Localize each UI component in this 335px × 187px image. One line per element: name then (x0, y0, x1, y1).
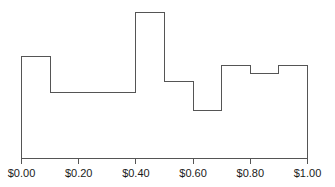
x-axis-tick-label: $0.40 (122, 167, 150, 179)
x-axis-tick-label: $0.60 (179, 167, 207, 179)
x-axis-tick-label: $1.00 (294, 167, 322, 179)
histogram-plot-svg (0, 0, 335, 187)
x-axis-tick-label: $0.00 (8, 167, 36, 179)
x-axis-tick-label: $0.20 (65, 167, 93, 179)
histogram-step-outline (22, 13, 308, 159)
x-axis-ticks (22, 159, 308, 164)
x-axis-tick-label: $0.80 (237, 167, 265, 179)
plot-area (22, 13, 308, 164)
histogram-chart: $0.00$0.20$0.40$0.60$0.80$1.00 (0, 0, 335, 187)
